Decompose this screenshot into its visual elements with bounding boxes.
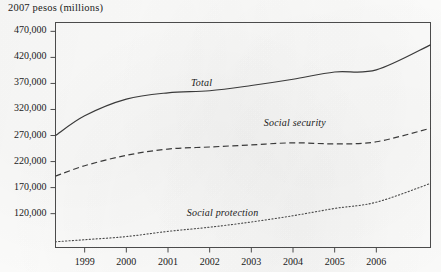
series-label-social-security: Social security bbox=[264, 117, 326, 128]
plot-area bbox=[0, 0, 441, 272]
x-tick-label: 2006 bbox=[351, 256, 401, 267]
series-line-total bbox=[56, 45, 431, 136]
series-line-social-security bbox=[56, 128, 431, 176]
y-tick-label: 270,000 bbox=[14, 129, 47, 140]
y-tick-label: 320,000 bbox=[14, 102, 47, 113]
y-tick-label: 120,000 bbox=[14, 207, 47, 218]
y-tick-label: 170,000 bbox=[14, 181, 47, 192]
y-tick-label: 420,000 bbox=[14, 50, 47, 61]
chart-figure: 2007 pesos (millions) 120,000170,000220,… bbox=[0, 0, 441, 272]
y-tick-label: 470,000 bbox=[14, 24, 47, 35]
y-tick-label: 370,000 bbox=[14, 76, 47, 87]
series-label-social-protection: Social protection bbox=[187, 207, 259, 218]
series-label-total: Total bbox=[191, 77, 212, 88]
y-tick-label: 220,000 bbox=[14, 155, 47, 166]
